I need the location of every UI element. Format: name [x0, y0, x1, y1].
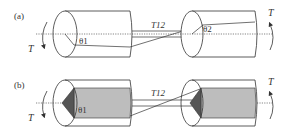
- panel-b: (b) T T θ1 T12: [14, 76, 275, 126]
- torque-left-label-a: T: [28, 43, 35, 54]
- torque-arrow-right-b: [270, 93, 273, 119]
- connector-label-b: T12: [151, 88, 166, 98]
- torsion-diagram: (a) T T θ1 θ2 T12: [0, 0, 288, 132]
- panel-a-label: (a): [14, 11, 24, 21]
- angle-left-label-b: θ1: [78, 105, 87, 115]
- torque-right-label-a: T: [268, 7, 275, 18]
- torque-arrow-left-a: [43, 22, 47, 47]
- angle-left-label-a: θ1: [79, 36, 88, 46]
- torque-left-label-b: T: [28, 112, 35, 123]
- connector-label-a: T12: [151, 20, 166, 30]
- panel-a: (a) T T θ1 θ2 T12: [14, 7, 275, 57]
- torque-arrow-left-b: [43, 91, 47, 116]
- torque-right-label-b: T: [268, 76, 275, 87]
- left-cylinder-b: [53, 80, 132, 126]
- panel-b-label: (b): [14, 80, 25, 90]
- torque-arrow-right-a: [270, 24, 273, 50]
- angle-right-label-a: θ2: [203, 24, 212, 34]
- right-cylinder-b: [181, 80, 257, 126]
